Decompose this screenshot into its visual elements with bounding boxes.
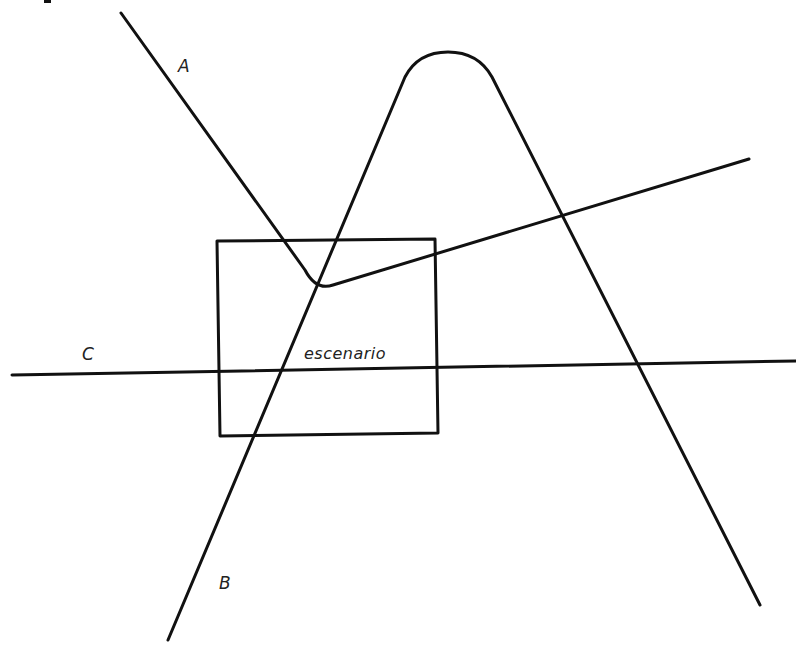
stage-label: escenario (304, 344, 386, 363)
path-a-label: A (177, 56, 190, 76)
stage-rectangle (217, 239, 438, 436)
path-b-line (168, 52, 760, 640)
path-b-label: B (219, 573, 231, 593)
path-c-label: C (82, 344, 94, 364)
diagram-canvas: A B C escenario (0, 0, 796, 649)
path-c-line (12, 361, 796, 375)
crop-artifact (44, 0, 51, 3)
